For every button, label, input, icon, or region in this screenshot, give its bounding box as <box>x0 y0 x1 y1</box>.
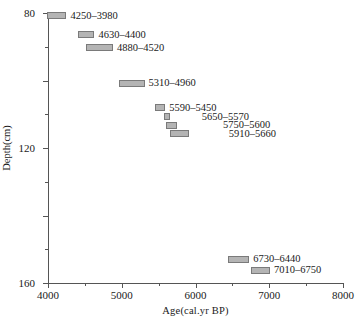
y-tick-label-160: 160 <box>19 278 36 289</box>
age-range-bar <box>166 122 177 129</box>
age-range-bar <box>164 113 170 120</box>
age-range-label: 6730–6440 <box>253 254 300 265</box>
x-minor-tick-5500 <box>159 283 160 286</box>
age-range-bar <box>47 12 67 19</box>
age-range-label: 5910–5660 <box>229 128 276 139</box>
y-tick-label-120: 120 <box>19 143 36 154</box>
x-tick-label-7000: 7000 <box>258 290 280 301</box>
age-range-bar <box>155 104 165 111</box>
x-tick-label-4000: 4000 <box>37 290 59 301</box>
age-range-bar <box>86 44 113 51</box>
x-tick-5000 <box>122 283 123 288</box>
x-minor-tick-7500 <box>306 283 307 286</box>
y-tick-label-80: 80 <box>24 8 35 19</box>
x-tick-label-6000: 6000 <box>185 290 207 301</box>
age-range-label: 5310–4960 <box>149 78 196 89</box>
age-range-label: 4880–4520 <box>117 42 164 53</box>
age-range-bar <box>251 267 270 274</box>
x-minor-tick-4500 <box>85 283 86 286</box>
y-minor-tick-100 <box>45 47 48 48</box>
age-range-bar <box>228 256 249 263</box>
age-range-label: 4630–4400 <box>98 30 145 41</box>
x-tick-4000 <box>48 283 49 288</box>
age-range-bar <box>119 80 145 87</box>
age-range-label: 7010–6750 <box>274 265 321 276</box>
x-axis-title: Age(cal.yr BP) <box>48 305 343 316</box>
age-range-bar <box>170 130 188 137</box>
x-tick-6000 <box>196 283 197 288</box>
age-depth-chart: 80120160200240 40005000600070008000 4250… <box>0 0 358 321</box>
y-axis-line <box>48 13 49 283</box>
x-tick-8000 <box>343 283 344 288</box>
x-minor-tick-6500 <box>232 283 233 286</box>
plot-area: 80120160200240 40005000600070008000 4250… <box>48 13 343 283</box>
x-tick-7000 <box>269 283 270 288</box>
x-tick-label-8000: 8000 <box>332 290 354 301</box>
y-axis-title: Depth(cm) <box>1 125 12 170</box>
y-minor-tick-220 <box>45 249 48 250</box>
y-minor-tick-180 <box>45 182 48 183</box>
x-tick-label-5000: 5000 <box>111 290 133 301</box>
age-range-bar <box>78 31 95 38</box>
age-range-label: 4250–3980 <box>70 10 117 21</box>
y-tick-120: 120 <box>43 81 48 82</box>
y-minor-tick-140 <box>45 114 48 115</box>
y-tick-160: 160 <box>43 148 48 149</box>
y-tick-200: 200 <box>43 216 48 217</box>
